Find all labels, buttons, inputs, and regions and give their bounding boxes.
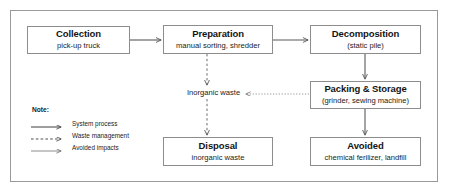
legend: Note: System process <box>31 106 151 153</box>
node-avoided-subtitle: chemical ferilizer, landfill <box>325 154 407 163</box>
node-disposal-subtitle: inorganic waste <box>192 154 245 163</box>
edge-label-inorganic-waste: Inorganic waste <box>185 88 242 97</box>
node-collection-title: Collection <box>56 29 101 40</box>
node-collection[interactable]: Collection pick-up truck <box>27 26 130 54</box>
node-preparation-title: Preparation <box>192 29 244 40</box>
legend-item-system-process-label: System process <box>72 120 117 127</box>
legend-note-label: Note: <box>32 106 151 113</box>
node-decomposition-subtitle: (static pile) <box>347 42 384 51</box>
node-disposal-title: Disposal <box>199 141 238 152</box>
node-preparation-subtitle: manual sorting, shredder <box>176 42 260 51</box>
node-packing-and-storage[interactable]: Packing & Storage (grinder, sewing machi… <box>310 81 421 109</box>
legend-thin-arrow-icon <box>31 142 65 152</box>
legend-item-system-process: System process <box>31 117 151 129</box>
legend-dashed-arrow-icon <box>31 130 65 140</box>
node-avoided[interactable]: Avoided chemical ferilizer, landfill <box>310 137 421 166</box>
node-avoided-title: Avoided <box>347 141 383 152</box>
legend-item-avoided-impacts-label: Avoided impacts <box>72 144 119 151</box>
node-preparation[interactable]: Preparation manual sorting, shredder <box>163 25 273 54</box>
legend-item-avoided-impacts: Avoided impacts <box>31 141 151 153</box>
node-disposal[interactable]: Disposal inorganic waste <box>163 137 273 166</box>
legend-item-waste-management-label: Waste management <box>72 132 129 139</box>
node-collection-subtitle: pick-up truck <box>57 42 100 51</box>
node-decomposition[interactable]: Decomposition (static pile) <box>310 25 421 54</box>
legend-solid-arrow-icon <box>31 118 65 128</box>
node-packing-and-storage-title: Packing & Storage <box>324 84 406 95</box>
node-packing-and-storage-subtitle: (grinder, sewing machine) <box>322 97 409 106</box>
legend-item-waste-management: Waste management <box>31 129 151 141</box>
diagram-canvas: Collection pick-up truck Preparation man… <box>0 0 449 191</box>
node-decomposition-title: Decomposition <box>332 29 399 40</box>
